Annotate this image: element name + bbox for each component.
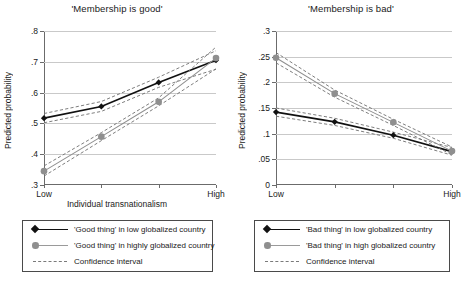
plot-area-right: .3.25.2.15.1.050LowHigh [276, 31, 452, 185]
legend-item-bad-low: 'Bad thing' in low globalized country [255, 221, 449, 237]
data-point-diamond [156, 79, 162, 85]
legend-label-good-low: 'Good thing' in low globalized country [74, 225, 206, 234]
dashed-line-icon [265, 261, 299, 262]
legend-left: 'Good thing' in low globalized country '… [22, 220, 213, 272]
confidence-interval-line [44, 47, 216, 166]
x-axis-tick-label: Low [36, 189, 52, 199]
data-point-diamond [332, 119, 338, 125]
x-axis-tick [216, 185, 217, 188]
chart-title-right: 'Membership is bad' [234, 3, 468, 14]
dashed-line-icon [33, 261, 67, 262]
data-point-circle [213, 55, 220, 62]
series-dark [273, 108, 455, 155]
x-axis-tick [452, 185, 453, 188]
x-axis-tick [393, 185, 394, 188]
data-point-diamond [390, 132, 396, 138]
x-axis-label-right: Individual transnationalism [234, 199, 468, 209]
legend-key-dark-diamond [261, 223, 301, 235]
data-point-diamond [98, 103, 104, 109]
x-axis-tick [159, 185, 160, 188]
data-point-circle [98, 133, 105, 140]
legend-item-good-low: 'Good thing' in low globalized country [23, 221, 212, 237]
y-axis-tick-label: .8 [31, 26, 38, 36]
diamond-marker-icon [31, 225, 39, 233]
data-point-circle [155, 99, 162, 106]
data-point-circle [273, 54, 280, 61]
legend-key-light-circle [261, 239, 301, 251]
confidence-interval-line [44, 69, 216, 176]
confidence-interval-line [276, 53, 452, 147]
y-axis-label-left: Predicted probability [1, 50, 15, 170]
y-axis-tick-label: .3 [263, 26, 270, 36]
data-point-diamond [273, 109, 279, 115]
legend-label-confidence-interval: Confidence interval [74, 257, 142, 266]
x-axis-tick [44, 185, 45, 188]
x-axis-tick [276, 185, 277, 188]
y-axis-tick-label: .2 [263, 77, 270, 87]
data-point-circle [449, 148, 456, 155]
circle-marker-icon [264, 242, 271, 249]
y-axis-tick-label: .15 [258, 103, 270, 113]
y-axis-tick-label: .1 [263, 129, 270, 139]
series-layer [276, 31, 452, 185]
legend-item-confidence-interval: Confidence interval [23, 253, 212, 269]
data-point-circle [331, 90, 338, 97]
chart-title-left: 'Membership is good' [0, 3, 234, 14]
data-point-diamond [41, 115, 47, 121]
series-line [276, 58, 452, 151]
data-point-circle [390, 119, 397, 126]
legend-label-bad-high: 'Bad thing' in high globalized country [306, 241, 435, 250]
series-line [44, 60, 216, 118]
y-axis-tick-label: .7 [31, 57, 38, 67]
y-axis-tick-label: .25 [258, 52, 270, 62]
series-line [44, 58, 216, 171]
x-axis-tick-label: Low [268, 189, 284, 199]
x-axis-tick [335, 185, 336, 188]
y-axis-tick-label: .05 [258, 154, 270, 164]
y-axis-tick-label: .5 [31, 118, 38, 128]
plot-area-left: .8.7.6.5.4.3LowHigh [44, 31, 216, 185]
x-axis-tick [101, 185, 102, 188]
legend-key-dashed [29, 255, 69, 267]
line-swatch-icon [269, 229, 300, 231]
x-axis-tick-label: High [443, 189, 460, 199]
data-point-circle [41, 168, 48, 175]
line-swatch-icon [37, 229, 68, 231]
confidence-interval-line [44, 51, 216, 114]
line-swatch-icon [39, 245, 68, 246]
y-axis-label-right: Predicted probability [235, 50, 249, 170]
series-light [41, 47, 220, 176]
legend-key-light-circle [29, 239, 69, 251]
series-light [273, 53, 456, 155]
legend-label-bad-low: 'Bad thing' in low globalized country [306, 225, 432, 234]
legend-item-confidence-interval: Confidence interval [255, 253, 449, 269]
legend-label-good-high: 'Good thing' in highly globalized countr… [74, 241, 214, 250]
circle-marker-icon [32, 242, 39, 249]
x-axis-label-left: Individual transnationalism [0, 199, 234, 209]
legend-item-good-high: 'Good thing' in highly globalized countr… [23, 237, 212, 253]
legend-key-dashed [261, 255, 301, 267]
figure-root: 'Membership is good' Predicted probabili… [0, 0, 468, 285]
legend-item-bad-high: 'Bad thing' in high globalized country [255, 237, 449, 253]
x-axis-tick-label: High [207, 189, 224, 199]
y-axis-tick-label: .6 [31, 88, 38, 98]
panel-membership-is-bad: 'Membership is bad' Predicted probabilit… [234, 0, 468, 285]
series-dark [41, 51, 219, 123]
line-swatch-icon [271, 245, 300, 246]
legend-key-dark-diamond [29, 223, 69, 235]
confidence-interval-line [276, 116, 452, 155]
panel-membership-is-good: 'Membership is good' Predicted probabili… [0, 0, 234, 285]
legend-label-confidence-interval: Confidence interval [306, 257, 374, 266]
legend-right: 'Bad thing' in low globalized country 'B… [254, 220, 450, 272]
y-axis-tick-label: .4 [31, 149, 38, 159]
series-layer [44, 31, 216, 185]
diamond-marker-icon [263, 225, 271, 233]
